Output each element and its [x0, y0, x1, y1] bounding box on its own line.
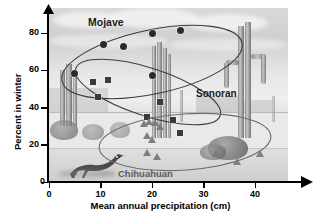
y-tick-label: 0 — [31, 176, 45, 186]
y-tick-label: 20 — [25, 139, 39, 149]
x-tick-mark — [203, 181, 205, 188]
saguaro-cactus — [168, 54, 171, 138]
data-point-chihuahuan — [148, 136, 156, 143]
saguaro-cactus — [238, 26, 244, 138]
y-tick-mark — [41, 70, 49, 72]
data-point-mojave — [149, 30, 156, 37]
x-tick-label: 40 — [246, 189, 264, 199]
y-tick-mark — [41, 144, 49, 146]
saguaro-cactus — [180, 90, 183, 122]
data-point-sonoran — [105, 77, 111, 83]
x-axis-label: Mean annual precipitation (cm) — [0, 200, 321, 211]
saguaro-cactus — [73, 74, 77, 126]
saguaro-cactus — [60, 70, 65, 126]
series-label-chihuahuan: Chihuahuan — [118, 168, 173, 179]
data-point-mojave — [71, 70, 78, 77]
desert-background-image — [48, 8, 288, 182]
data-point-sonoran — [95, 94, 101, 100]
x-tick-mark — [152, 181, 154, 188]
cloud-shape — [168, 38, 288, 51]
x-tick-mark — [100, 181, 102, 188]
data-point-mojave — [177, 27, 184, 34]
y-tick-mark — [41, 33, 49, 35]
cloud-shape — [188, 14, 268, 32]
data-point-sonoran — [90, 79, 96, 85]
data-point-chihuahuan — [233, 158, 241, 165]
x-tick-mark — [255, 181, 257, 188]
data-point-chihuahuan — [256, 150, 264, 157]
data-point-chihuahuan — [153, 153, 161, 160]
y-tick-mark — [41, 107, 49, 109]
x-tick-mark — [49, 181, 51, 188]
mesa-butte — [48, 88, 108, 114]
x-axis-line — [47, 181, 305, 183]
cactus-arm — [261, 54, 266, 84]
data-point-mojave — [149, 72, 156, 79]
data-point-sonoran — [157, 99, 163, 105]
ground-shadow — [58, 170, 116, 177]
x-tick-label: 30 — [195, 189, 213, 199]
data-point-chihuahuan — [143, 149, 151, 156]
desert-shrub — [50, 120, 78, 140]
desert-shrub — [110, 122, 130, 138]
x-axis-arrowhead — [300, 176, 313, 188]
series-label-sonoran: Sonoran — [196, 88, 237, 99]
cactus-arm — [224, 62, 229, 88]
y-axis-label: Percent in winter — [12, 73, 23, 150]
data-point-chihuahuan — [212, 150, 220, 157]
data-point-mojave — [100, 41, 107, 48]
x-tick-label: 20 — [143, 189, 161, 199]
y-tick-label: 80 — [25, 27, 39, 37]
data-point-sonoran — [177, 130, 183, 136]
saguaro-cactus — [272, 96, 275, 122]
y-tick-label: 40 — [25, 102, 39, 112]
y-axis-line — [47, 10, 49, 183]
desert-shrub — [82, 124, 104, 140]
x-tick-label: 10 — [92, 189, 110, 199]
data-point-chihuahuan — [156, 123, 164, 130]
scatter-plot-figure: Mojave Sonoran Chihuahuan 020406080 0102… — [0, 0, 321, 217]
x-tick-label: 0 — [40, 189, 58, 199]
saguaro-cactus — [245, 22, 251, 138]
y-tick-label: 60 — [25, 64, 39, 74]
series-label-mojave: Mojave — [88, 16, 124, 28]
data-point-sonoran — [170, 117, 176, 123]
y-axis-arrowhead — [42, 4, 55, 14]
